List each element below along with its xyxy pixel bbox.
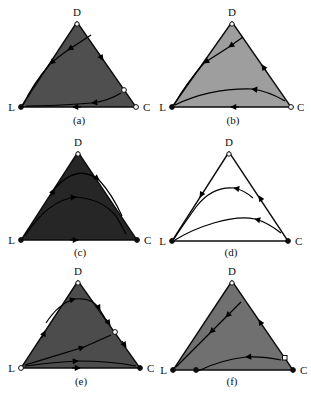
fixed-point-C (138, 366, 143, 371)
fixed-point-C (291, 368, 296, 373)
fixed-point-L (19, 105, 24, 110)
simplex-triangle (172, 22, 291, 107)
vertex-label-L: L (160, 364, 167, 376)
vertex-label-D: D (225, 136, 233, 148)
simplex-panel-a: D L C (a) (8, 6, 150, 127)
edge-fixed-point-filled (194, 368, 199, 373)
edge-fixed-point (113, 330, 118, 335)
vertex-label-L: L (8, 362, 15, 374)
fixed-point-D (76, 281, 80, 285)
vertex-label-D: D (74, 136, 82, 148)
fixed-point-D (227, 152, 231, 156)
panel-caption: (c) (74, 246, 87, 259)
panel-caption: (b) (227, 114, 240, 127)
fixed-point-C (134, 105, 139, 110)
panel-caption: (a) (73, 114, 86, 127)
simplex-triangle (21, 152, 137, 240)
vertex-label-L: L (8, 101, 15, 113)
vertex-label-C: C (143, 101, 150, 113)
fixed-point-L (170, 239, 175, 244)
vertex-label-L: L (159, 235, 166, 247)
figure-canvas: D L C (a) D L C (b) D L C (c) (0, 0, 311, 397)
simplex-panel-d: D L C (d) (159, 136, 302, 259)
simplex-panel-f: D L C (f) (160, 265, 307, 388)
vertex-label-D: D (73, 6, 81, 18)
simplex-panel-e: D L C (e) (8, 265, 154, 388)
panel-caption: (e) (75, 375, 88, 388)
fixed-point-D (76, 152, 80, 156)
vertex-label-D: D (228, 265, 236, 277)
vertex-label-C: C (144, 234, 151, 246)
vertex-label-D: D (74, 265, 82, 277)
vertex-label-C: C (300, 364, 307, 376)
fixed-point-C (289, 105, 294, 110)
panel-caption: (d) (225, 246, 238, 259)
vertex-label-C: C (295, 235, 302, 247)
fixed-point-L (19, 238, 24, 243)
simplex-panel-c: D L C (c) (8, 136, 151, 259)
simplex-triangle (21, 281, 140, 368)
simplex-figure: D L C (a) D L C (b) D L C (c) (0, 0, 311, 397)
fixed-point-D (75, 22, 79, 26)
simplex-triangle (173, 281, 293, 370)
simplex-panel-b: D L C (b) (159, 6, 304, 127)
fixed-point-C (286, 239, 291, 244)
panel-caption: (f) (227, 375, 238, 388)
fixed-point-L (19, 366, 24, 371)
fixed-point-L (170, 105, 175, 110)
vertex-label-L: L (159, 101, 166, 113)
simplex-triangle (172, 152, 288, 241)
vertex-label-C: C (147, 362, 154, 374)
fixed-point-L (171, 368, 176, 373)
vertex-label-L: L (8, 234, 15, 246)
edge-fixed-point (283, 356, 288, 361)
edge-fixed-point (122, 88, 127, 93)
vertex-label-C: C (297, 101, 304, 113)
vertex-label-D: D (228, 6, 236, 18)
fixed-point-D (230, 22, 234, 26)
fixed-point-D (230, 281, 234, 285)
fixed-point-C (135, 238, 140, 243)
